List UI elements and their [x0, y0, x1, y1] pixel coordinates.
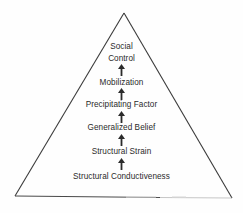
scan-artifact-left — [126, 196, 156, 198]
level-structural-strain: Structural Strain — [0, 147, 243, 157]
level-precipitating-factor: Precipitating Factor — [0, 100, 243, 110]
diagram-canvas: Social Control Mobilization Precipitatin… — [0, 0, 243, 213]
level-social-control-line2: Control — [0, 53, 243, 65]
level-generalized-belief-label: Generalized Belief — [0, 123, 243, 133]
level-social-control: Social Control — [0, 41, 243, 64]
triangle-base-edge-faded — [160, 198, 232, 199]
level-precipitating-factor-label: Precipitating Factor — [0, 100, 243, 110]
level-structural-conductiveness: Structural Conductiveness — [0, 172, 243, 182]
level-generalized-belief: Generalized Belief — [0, 123, 243, 133]
scan-artifact-right — [172, 196, 186, 198]
level-mobilization-label: Mobilization — [0, 78, 243, 88]
level-structural-conductiveness-label: Structural Conductiveness — [0, 172, 243, 182]
level-social-control-line1: Social — [0, 41, 243, 53]
level-mobilization: Mobilization — [0, 78, 243, 88]
level-structural-strain-label: Structural Strain — [0, 147, 243, 157]
